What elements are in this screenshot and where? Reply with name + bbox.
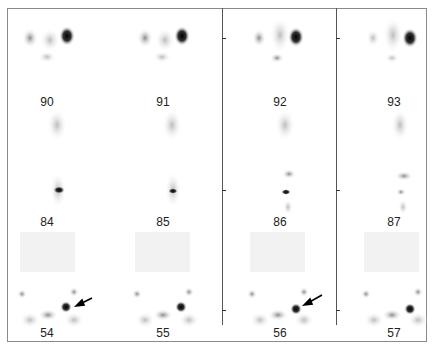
slice-label: 54 — [27, 326, 67, 340]
scan-57 — [361, 232, 428, 328]
scan-56 — [247, 232, 314, 328]
scan-86 — [275, 109, 296, 215]
scan-85 — [162, 109, 182, 208]
slice-label: 93 — [374, 95, 414, 109]
slice-label: 55 — [143, 326, 183, 340]
slice-label: 56 — [260, 326, 300, 340]
scan-91 — [137, 26, 190, 63]
slice-label: 91 — [143, 95, 183, 109]
slice-label: 92 — [260, 95, 300, 109]
arrow-icon — [304, 295, 322, 305]
slice-label: 87 — [374, 215, 414, 229]
scan-images — [0, 0, 434, 348]
slice-label: 90 — [27, 95, 67, 109]
slice-label: 85 — [143, 215, 183, 229]
scan-90 — [22, 26, 75, 63]
slice-label: 57 — [374, 326, 414, 340]
scan-54 — [17, 232, 84, 328]
scan-55 — [132, 232, 199, 328]
arrow-icon — [76, 298, 92, 306]
slice-label: 84 — [27, 215, 67, 229]
scan-93 — [366, 17, 418, 63]
slice-label: 86 — [260, 215, 300, 229]
scan-87 — [391, 109, 413, 215]
scan-92 — [252, 17, 304, 63]
scan-84 — [47, 109, 67, 208]
